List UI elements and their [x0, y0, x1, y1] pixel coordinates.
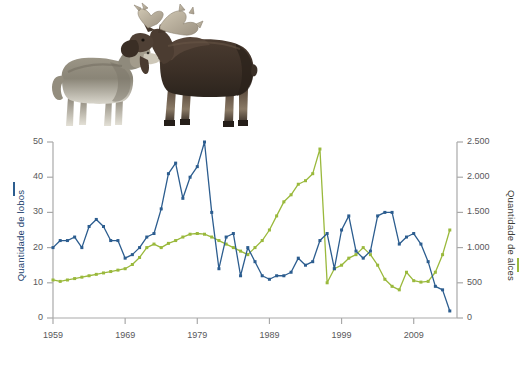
left-tick-label: 40: [10, 171, 43, 181]
left-axis-ticks: [47, 142, 53, 318]
x-axis-ticks: [53, 318, 414, 324]
left-tick-label: 20: [10, 242, 43, 252]
x-tick-label: 1989: [249, 330, 289, 340]
moose-photo: [121, 3, 258, 127]
x-tick-label: 2009: [394, 330, 434, 340]
series-line-moose: [52, 148, 452, 292]
left-tick-label: 50: [10, 136, 43, 146]
right-tick-label: 500: [467, 277, 482, 287]
left-tick-label: 0: [10, 312, 43, 322]
x-tick-label: 1959: [33, 330, 73, 340]
animal-illustrations: [40, 2, 280, 132]
right-tick-label: 2.000: [467, 171, 490, 181]
x-tick-label: 1969: [105, 330, 145, 340]
x-tick-label: 1999: [322, 330, 362, 340]
right-axis-ticks: [457, 142, 463, 318]
left-tick-label: 30: [10, 206, 43, 216]
figure-root: Quantidade de lobos Quantidade de alces …: [0, 0, 531, 372]
chart-area: Quantidade de lobos Quantidade de alces …: [0, 130, 531, 372]
animals-svg: [40, 2, 280, 132]
right-tick-label: 2.500: [467, 136, 490, 146]
right-tick-label: 1.500: [467, 206, 490, 216]
right-tick-label: 1.000: [467, 242, 490, 252]
left-tick-label: 10: [10, 277, 43, 287]
x-tick-label: 1979: [177, 330, 217, 340]
right-tick-label: 0: [467, 312, 472, 322]
